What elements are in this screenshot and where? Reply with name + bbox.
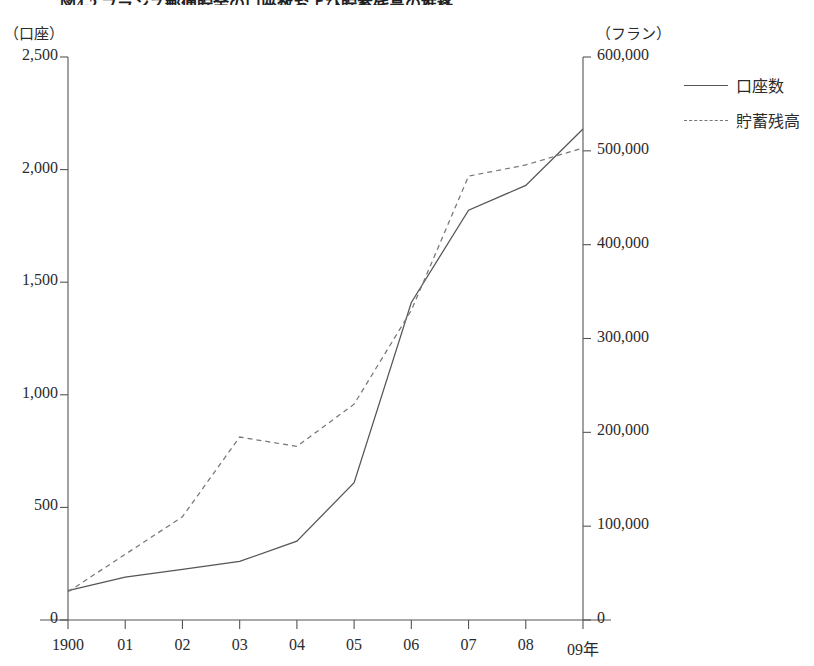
left-tick-label: 1,500 <box>0 271 58 289</box>
left-tick-label: 2,500 <box>0 46 58 64</box>
x-tick-label: 09年 <box>549 636 617 660</box>
left-axis-ticks <box>60 57 68 620</box>
legend-label-accounts: 口座数 <box>736 73 784 97</box>
right-tick-label: 100,000 <box>597 515 693 533</box>
right-tick-label: 600,000 <box>597 46 693 64</box>
legend-item-savings: 貯蓄残高 <box>684 108 800 132</box>
right-tick-label: 0 <box>597 609 693 627</box>
chart-container: 図4-2 フランス郵便貯金の口座数および貯蓄残高の推移 （口座） （フラン） 2… <box>0 0 814 666</box>
right-tick-label: 300,000 <box>597 328 693 346</box>
left-tick-label: 1,000 <box>0 384 58 402</box>
series-line-accounts <box>68 129 583 591</box>
legend-item-accounts: 口座数 <box>684 73 784 97</box>
legend-swatch-solid-icon <box>684 85 728 86</box>
legend-swatch-dashed-icon <box>684 120 728 121</box>
left-tick-label: 500 <box>0 496 58 514</box>
right-tick-label: 500,000 <box>597 140 693 158</box>
x-axis-ticks <box>68 620 583 629</box>
left-tick-label: 0 <box>0 609 58 627</box>
legend-label-savings: 貯蓄残高 <box>736 108 800 132</box>
right-tick-label: 400,000 <box>597 234 693 252</box>
right-axis-ticks <box>583 57 591 620</box>
left-tick-label: 2,000 <box>0 159 58 177</box>
series-line-savings <box>68 148 583 592</box>
right-tick-label: 200,000 <box>597 421 693 439</box>
